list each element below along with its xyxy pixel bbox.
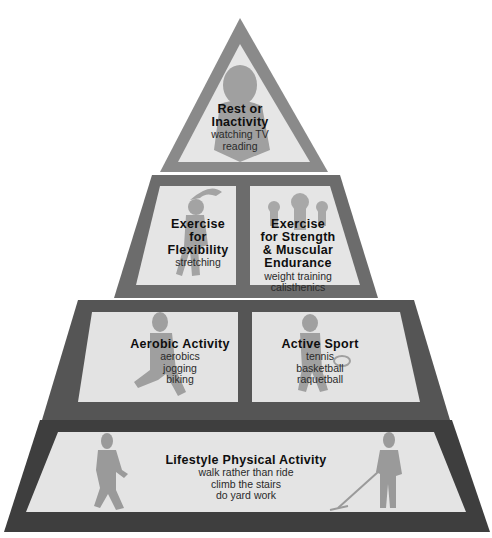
- tier2-right-label: Exercise for Strength & Muscular Enduran…: [248, 218, 348, 294]
- tier4-item: walk rather than ride: [146, 467, 346, 479]
- tier3-left-item: biking: [110, 374, 250, 386]
- tier3-left-item: aerobics: [110, 351, 250, 363]
- tier4-label: Lifestyle Physical Activity walk rather …: [146, 454, 346, 502]
- tier1-item: reading: [190, 141, 290, 153]
- tier1-label: Rest or Inactivity watching TV reading: [190, 103, 290, 152]
- tier3-right-item: tennis: [260, 351, 380, 363]
- tier2-left-item: stretching: [148, 257, 248, 269]
- tier2-left-label: Exercise for Flexibility stretching: [148, 218, 248, 269]
- tier3-right-item: raquetball: [260, 374, 380, 386]
- tier3-left-label: Aerobic Activity aerobics jogging biking: [110, 338, 250, 386]
- tier4-item: do yard work: [146, 490, 346, 502]
- tier3-right-label: Active Sport tennis basketball raquetbal…: [260, 338, 380, 386]
- tier2-right-title-line4: Endurance: [248, 257, 348, 270]
- tier2-right-item: calisthenics: [248, 282, 348, 294]
